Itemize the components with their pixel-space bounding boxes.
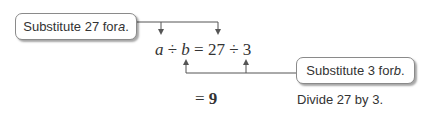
number-3: 3 <box>243 40 252 59</box>
variable-b: b <box>181 40 190 59</box>
callout-variable: b <box>394 63 401 78</box>
number-27: 27 <box>208 40 225 59</box>
callout-substitute-a: Substitute 27 for a. <box>15 13 137 40</box>
callout-text: Substitute 27 for <box>23 19 118 34</box>
equals-sign: = <box>194 40 204 59</box>
callout-punct: . <box>125 19 129 34</box>
callout-punct: . <box>401 63 405 78</box>
result-value: 9 <box>209 89 218 108</box>
divide-sign: ÷ <box>168 40 177 59</box>
callout-substitute-b: Substitute 3 for b. <box>296 57 415 84</box>
equation-line: a ÷ b = 27 ÷ 3 <box>155 40 251 60</box>
callout-variable: a <box>118 19 125 34</box>
equals-sign: = <box>195 89 205 108</box>
step-note: Divide 27 by 3. <box>297 92 383 107</box>
variable-a: a <box>155 40 164 59</box>
divide-sign: ÷ <box>229 40 238 59</box>
callout-text: Substitute 3 for <box>306 63 393 78</box>
result-line: = 9 <box>195 89 217 109</box>
